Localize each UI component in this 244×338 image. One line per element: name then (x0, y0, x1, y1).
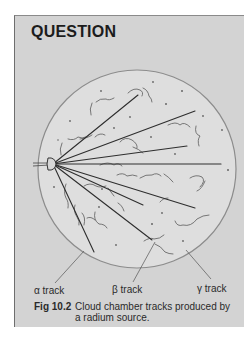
gamma-pointer-line (186, 250, 211, 279)
alpha-pointer-line (55, 251, 84, 283)
alpha-track-label: α track (34, 285, 64, 296)
beta-track-label: β track (112, 284, 142, 295)
gamma-track-label: γ track (197, 283, 226, 294)
figure-caption-text: Cloud chamber tracks produced by a radiu… (75, 301, 235, 323)
figure-number: Fig 10.2 (34, 301, 75, 312)
figure-caption: Fig 10.2Cloud chamber tracks produced by… (34, 301, 239, 323)
